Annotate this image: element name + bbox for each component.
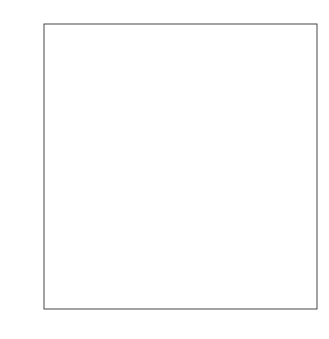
diffusion-chart xyxy=(0,0,329,339)
plot-frame xyxy=(44,24,317,309)
